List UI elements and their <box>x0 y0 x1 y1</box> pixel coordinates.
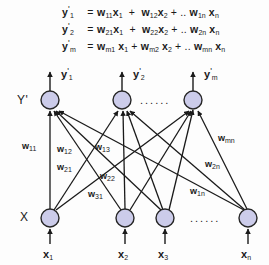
equation-row-1: y'1 = w11x1 + w12x2 + .. w1n xn <box>62 4 267 21</box>
output-layer-ellipsis: ...... <box>140 94 170 106</box>
equation-1-lhs: y'1 <box>62 4 84 19</box>
weight-label-w1n: w1n <box>190 186 205 197</box>
weight-label-wmn: wmn <box>218 133 235 144</box>
weight-label-w12: w12 <box>57 144 72 155</box>
input-value-label-xn: xn <box>241 248 251 261</box>
input-node-x3[interactable] <box>156 209 174 227</box>
weight-label-w22: w22 <box>100 171 115 182</box>
weight-label-w2n: w2n <box>205 159 220 170</box>
output-value-label-y1: y'1 <box>61 66 73 81</box>
neural-network-figure: y'1 = w11x1 + w12x2 + .. w1n xn y'2 = w2… <box>0 0 269 265</box>
equation-2-equals: = <box>84 23 97 35</box>
edge-x2-ym <box>130 111 191 210</box>
edge-xn-y2 <box>130 111 245 210</box>
weight-label-w21: w21 <box>57 162 72 173</box>
weight-label-w31: w31 <box>88 189 103 200</box>
equation-3-equals: = <box>84 40 97 52</box>
equation-3-lhs: y'm <box>62 38 84 53</box>
output-value-label-ym: y'm <box>204 66 218 81</box>
input-arrows <box>50 229 248 244</box>
output-node-y2[interactable] <box>113 91 131 109</box>
edge-x1-ym <box>56 111 189 210</box>
network-svg <box>0 58 269 265</box>
output-value-label-y2: y'2 <box>133 66 145 81</box>
input-node-xn[interactable] <box>239 209 257 227</box>
equation-1-equals: = <box>84 6 97 18</box>
input-value-label-x3: x3 <box>158 248 168 261</box>
weight-label-w11: w11 <box>22 141 36 152</box>
equation-1-rhs: w11x1 + w12x2 + .. w1n xn <box>97 6 219 19</box>
network-diagram: Y' X y'1 y'2 y'm x1 x2 x3 xn w11 w12 w13… <box>0 58 269 265</box>
input-node-x1[interactable] <box>41 209 59 227</box>
input-layer-ellipsis: ...... <box>190 212 220 224</box>
equation-row-2: y'2 = w21x1 + w22x2 + .. w2n xn <box>62 21 267 38</box>
equation-row-3: y'm = wm1 x1 + wm2 x2 + .. wmn xn <box>62 38 267 55</box>
equation-block: y'1 = w11x1 + w12x2 + .. w1n xn y'2 = w2… <box>62 4 267 55</box>
input-value-label-x1: x1 <box>43 248 53 261</box>
input-node-x2[interactable] <box>116 209 134 227</box>
weight-label-w13: w13 <box>95 142 110 153</box>
input-value-label-x2: x2 <box>118 248 128 261</box>
output-layer-nodes <box>41 91 202 109</box>
input-layer-label: X <box>20 210 29 224</box>
output-node-ym[interactable] <box>184 91 202 109</box>
equation-3-rhs: wm1 x1 + wm2 x2 + .. wmn xn <box>97 40 225 53</box>
input-layer-nodes <box>41 209 257 227</box>
equation-2-rhs: w21x1 + w22x2 + .. w2n xn <box>97 23 219 36</box>
output-layer-label: Y' <box>17 93 28 107</box>
equation-2-lhs: y'2 <box>62 21 84 36</box>
output-node-y1[interactable] <box>41 91 59 109</box>
